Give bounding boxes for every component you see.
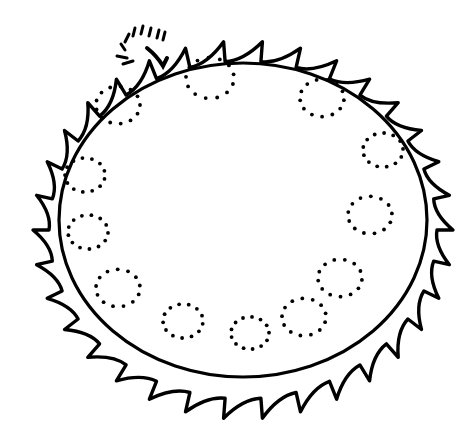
dotted-circle [67, 213, 110, 251]
orange-drawing [0, 0, 473, 437]
stem-icon [117, 26, 167, 66]
dotted-circle [316, 258, 363, 299]
dotted-circle [230, 315, 271, 351]
peel-spiky-outline [33, 42, 453, 418]
dotted-circle [346, 194, 393, 235]
dotted-tracing-circles [63, 56, 405, 351]
fruit-body-outline [59, 63, 427, 377]
dotted-circle [94, 267, 142, 308]
dotted-circle [63, 156, 106, 194]
dotted-circle [298, 78, 345, 119]
dotted-circle [280, 297, 327, 338]
dotted-circle [161, 302, 204, 340]
orange-outline-icon [0, 0, 473, 437]
peel-spikes [33, 42, 453, 418]
